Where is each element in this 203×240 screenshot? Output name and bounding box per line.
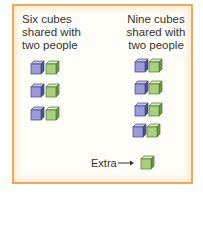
right-cube-row-1 <box>135 59 162 72</box>
green-cube <box>147 124 160 137</box>
right-cube-row-4 <box>133 124 160 137</box>
arrow-icon <box>118 161 134 166</box>
extra-green-cube <box>141 156 154 169</box>
right-cube-row-2 <box>135 81 162 94</box>
extra-label: Extra <box>91 157 117 169</box>
green-cube <box>46 61 59 74</box>
purple-cube <box>135 81 148 94</box>
purple-cube <box>133 124 146 137</box>
purple-cube <box>135 103 148 116</box>
left-cube-row-1 <box>31 61 59 74</box>
green-cube <box>149 81 162 94</box>
green-cube <box>46 107 59 120</box>
green-cube <box>149 103 162 116</box>
green-cube <box>46 84 59 97</box>
left-cube-row-2 <box>31 84 59 97</box>
green-cube <box>149 59 162 72</box>
purple-cube <box>135 59 148 72</box>
purple-cube <box>31 107 44 120</box>
right-cube-row-3 <box>135 103 162 116</box>
purple-cube <box>31 84 44 97</box>
left-cube-row-3 <box>31 107 59 120</box>
purple-cube <box>31 61 44 74</box>
